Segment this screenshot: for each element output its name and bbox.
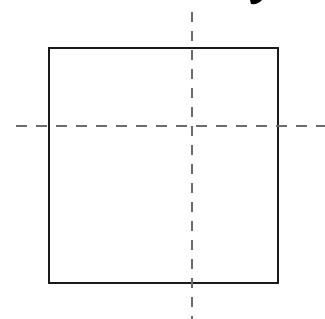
diagram-canvas (0, 0, 325, 319)
square (49, 48, 278, 283)
top-corner-mark (250, 0, 262, 4)
